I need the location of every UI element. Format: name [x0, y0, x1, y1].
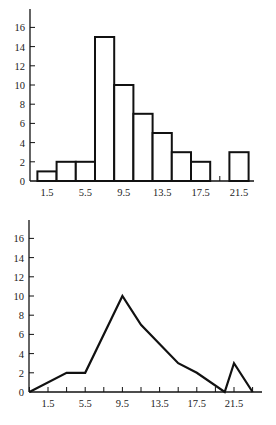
y-tick-label: 12 [15, 61, 26, 72]
x-tick-label: 21.5 [230, 187, 248, 198]
histogram-bar [153, 133, 172, 181]
frequency-polygon-chart: 02468101214161.55.59.513.517.521.5 [0, 212, 276, 425]
x-tick-label: 5.5 [79, 398, 92, 409]
histogram-bar [114, 85, 133, 181]
x-tick-label: 1.5 [40, 187, 53, 198]
x-tick-label: 1.5 [41, 398, 54, 409]
frequency-polygon-plot: 02468101214161.55.59.513.517.521.5 [0, 212, 276, 425]
histogram-bar [37, 171, 56, 181]
x-tick-label: 13.5 [150, 398, 168, 409]
y-tick-label: 14 [14, 253, 25, 264]
frequency-polygon-line [29, 296, 252, 392]
y-tick-label: 0 [20, 176, 25, 187]
histogram-plot: 02468101214161.55.59.513.517.521.5 [0, 0, 276, 212]
y-tick-label: 4 [19, 349, 25, 360]
y-tick-label: 10 [15, 80, 26, 91]
histogram-bar [95, 37, 114, 181]
histogram-bar [229, 152, 248, 181]
x-tick-label: 5.5 [79, 187, 92, 198]
y-tick-label: 4 [20, 138, 26, 149]
histogram-chart: 02468101214161.55.59.513.517.521.5 [0, 0, 276, 212]
y-tick-label: 12 [14, 272, 25, 283]
x-tick-label: 21.5 [225, 398, 243, 409]
x-tick-label: 17.5 [191, 187, 209, 198]
y-tick-label: 2 [19, 368, 24, 379]
x-tick-label: 17.5 [188, 398, 206, 409]
x-tick-label: 9.5 [116, 398, 129, 409]
y-tick-label: 10 [14, 291, 25, 302]
y-tick-label: 16 [15, 22, 26, 33]
histogram-bar [57, 162, 76, 181]
y-tick-label: 6 [20, 118, 25, 129]
y-tick-label: 0 [19, 387, 24, 398]
histogram-bar [191, 162, 210, 181]
x-tick-label: 13.5 [153, 187, 171, 198]
y-tick-label: 6 [19, 329, 24, 340]
histogram-bar [76, 162, 95, 181]
y-tick-label: 14 [15, 42, 26, 53]
y-tick-label: 16 [14, 233, 25, 244]
y-tick-label: 8 [20, 99, 25, 110]
histogram-bar [172, 152, 191, 181]
y-tick-label: 2 [20, 157, 25, 168]
histogram-bar [133, 114, 152, 181]
y-tick-label: 8 [19, 310, 24, 321]
x-tick-label: 9.5 [117, 187, 130, 198]
